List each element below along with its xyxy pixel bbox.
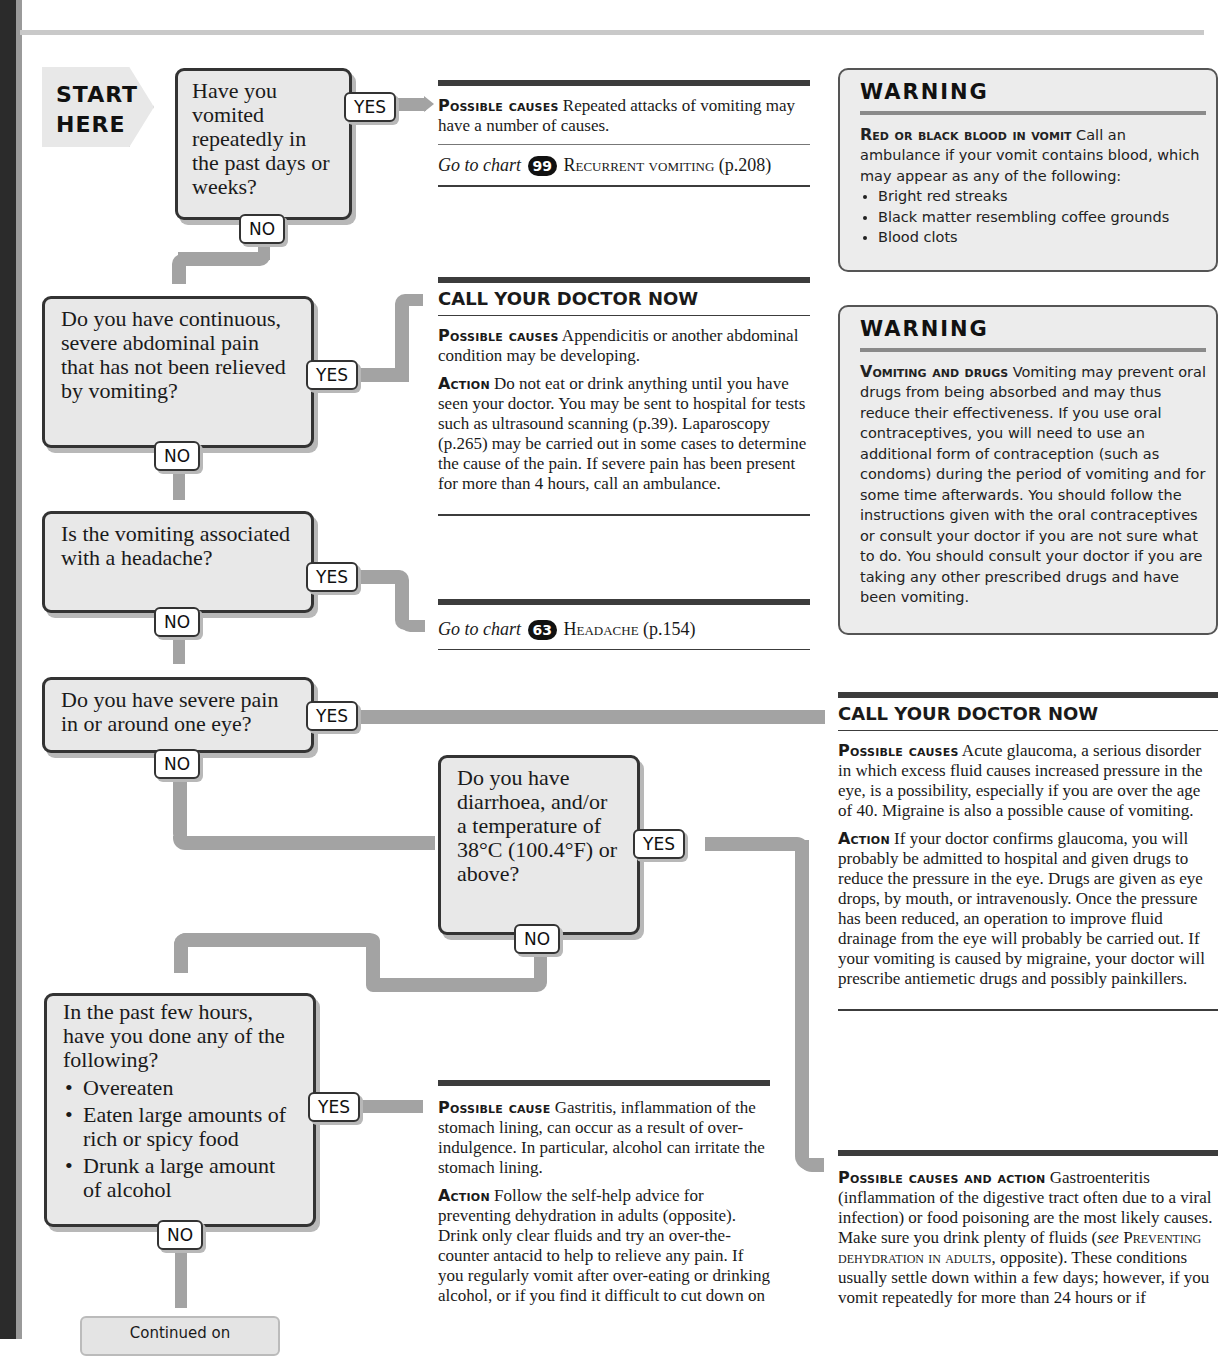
possible-causes-action-label: Possible causes and action: [838, 1168, 1045, 1187]
outcome-headache: Go to chart 63 Headache (p.154): [438, 599, 810, 650]
question-box-headache: Is the vomiting associated with a headac…: [42, 511, 314, 613]
chart-number-badge: 99: [528, 156, 557, 176]
arrow-head-icon: [424, 96, 434, 112]
connector-q5-yes: [798, 1158, 824, 1172]
outcome-abdominal-call-doctor: CALL YOUR DOCTOR NOW Possible causes App…: [438, 277, 810, 516]
connector-q6-yes: [357, 1100, 423, 1113]
chart-name: Recurrent vomiting: [563, 155, 714, 175]
start-line-2: HERE: [56, 110, 138, 140]
question-text: Do you have diarrhoea, and/or a temperat…: [457, 765, 617, 886]
no-button-q5[interactable]: NO: [514, 924, 560, 954]
warning-title: WARNING: [860, 319, 1206, 340]
yes-button-q2[interactable]: YES: [306, 360, 358, 390]
question-bullets: Overeaten Eaten large amounts of rich or…: [63, 1076, 297, 1202]
section-rule: [838, 692, 1218, 698]
yes-button-q6[interactable]: YES: [308, 1092, 360, 1122]
section-rule: [438, 1080, 770, 1086]
call-doctor-heading: CALL YOUR DOCTOR NOW: [438, 289, 810, 309]
possible-causes-label: Possible causes: [438, 96, 559, 115]
question-text: Is the vomiting associated with a headac…: [61, 521, 290, 570]
connector-q1-no: [178, 252, 270, 266]
action-text: Do not eat or drink anything until you h…: [438, 374, 806, 493]
warning-title: WARNING: [860, 82, 1206, 103]
connector-q5-yes: [705, 837, 809, 851]
section-rule: [438, 277, 810, 283]
no-button-q2[interactable]: NO: [154, 441, 200, 471]
bullet-item: Blood clots: [878, 227, 1206, 248]
book-spine: [0, 0, 16, 1339]
connector-q3-yes: [400, 620, 425, 632]
connector-q3-no: [173, 634, 185, 664]
warning-lead: Vomiting and drugs: [860, 362, 1008, 381]
section-rule: [438, 185, 810, 187]
question-box-eye-pain: Do you have severe pain in or around one…: [42, 677, 314, 753]
see-label: see: [1097, 1228, 1119, 1247]
question-text: In the past few hours, have you done any…: [63, 999, 285, 1072]
connector-q5-no: [174, 933, 380, 947]
warning-box-vomiting-and-drugs: WARNING Vomiting and drugs Vomiting may …: [838, 305, 1218, 635]
connector-q5-no: [174, 933, 188, 973]
warning-bullets: Bright red streaks Black matter resembli…: [860, 186, 1206, 248]
possible-causes-label: Possible causes: [438, 326, 559, 345]
connector-q2-yes: [395, 296, 409, 382]
section-rule: [838, 1150, 1218, 1156]
connector-q5-no: [366, 978, 547, 992]
yes-button-q5[interactable]: YES: [633, 829, 685, 859]
chart-page: (p.208): [719, 155, 772, 175]
question-box-overindulgence: In the past few hours, have you done any…: [44, 993, 316, 1227]
section-rule: [438, 514, 810, 516]
chart-name: Headache: [563, 619, 638, 639]
call-doctor-heading: CALL YOUR DOCTOR NOW: [838, 704, 1218, 724]
no-button-q6[interactable]: NO: [157, 1220, 203, 1250]
yes-button-q4[interactable]: YES: [306, 701, 358, 731]
no-button-q1[interactable]: NO: [239, 214, 285, 244]
section-rule: [438, 315, 810, 316]
continued-label: Continued on: [130, 1324, 230, 1342]
action-label: Action: [838, 829, 890, 848]
connector-q2-no: [173, 470, 185, 500]
outcome-gastritis: Possible cause Gastritis, inflammation o…: [438, 1080, 770, 1314]
book-spine-edge: [16, 0, 22, 1339]
question-box-diarrhoea-temperature: Do you have diarrhoea, and/or a temperat…: [438, 755, 640, 935]
warning-box-blood-in-vomit: WARNING Red or black blood in vomit Call…: [838, 68, 1218, 272]
header-rule: [20, 30, 1204, 35]
start-label: START HERE: [56, 80, 138, 140]
question-text: Do you have severe pain in or around one…: [61, 687, 278, 736]
yes-button-q1[interactable]: YES: [344, 92, 396, 122]
section-rule: [438, 649, 810, 650]
connector-q5-yes: [795, 840, 809, 1170]
connector-q2-yes: [395, 294, 423, 306]
section-rule: [438, 80, 810, 86]
question-text: Have you vomited repeatedly in the past …: [192, 78, 329, 199]
action-text: If your doctor confirms glaucoma, you wi…: [838, 829, 1205, 988]
outcome-gastroenteritis: Possible causes and action Gastroenterit…: [838, 1150, 1218, 1316]
continued-on-box[interactable]: Continued on: [80, 1316, 280, 1356]
question-text: Do you have continuous, severe abdominal…: [61, 306, 286, 403]
possible-cause-label: Possible cause: [438, 1098, 550, 1117]
start-line-1: START: [56, 80, 138, 110]
outcome-recurrent-vomiting: Possible causes Repeated attacks of vomi…: [438, 80, 810, 187]
outcome-eye-call-doctor: CALL YOUR DOCTOR NOW Possible causes Acu…: [838, 692, 1218, 1011]
warning-lead: Red or black blood in vomit: [860, 125, 1072, 144]
action-label: Action: [438, 1186, 490, 1205]
no-button-q3[interactable]: NO: [154, 607, 200, 637]
question-box-vomited-repeatedly: Have you vomited repeatedly in the past …: [175, 68, 352, 220]
goto-chart-link[interactable]: Go to chart 63 Headache (p.154): [438, 617, 810, 641]
connector-q6-no: [175, 1250, 187, 1308]
yes-button-q3[interactable]: YES: [306, 562, 358, 592]
bullet-item: Overeaten: [83, 1076, 297, 1100]
section-rule: [838, 730, 1218, 731]
connector-q1-no: [172, 254, 186, 284]
action-label: Action: [438, 374, 490, 393]
connector-q4-yes: [357, 710, 825, 724]
section-rule: [438, 599, 810, 605]
goto-chart-link[interactable]: Go to chart 99 Recurrent vomiting (p.208…: [438, 153, 810, 177]
bullet-item: Black matter resembling coffee grounds: [878, 207, 1206, 228]
no-button-q4[interactable]: NO: [154, 749, 200, 779]
goto-prefix: Go to chart: [438, 619, 521, 639]
warning-rule: [860, 348, 1206, 352]
bullet-item: Drunk a large amount of alcohol: [83, 1154, 297, 1202]
possible-causes-label: Possible causes: [838, 741, 959, 760]
question-box-abdominal-pain: Do you have continuous, severe abdominal…: [42, 296, 314, 448]
chart-page: (p.154): [643, 619, 696, 639]
